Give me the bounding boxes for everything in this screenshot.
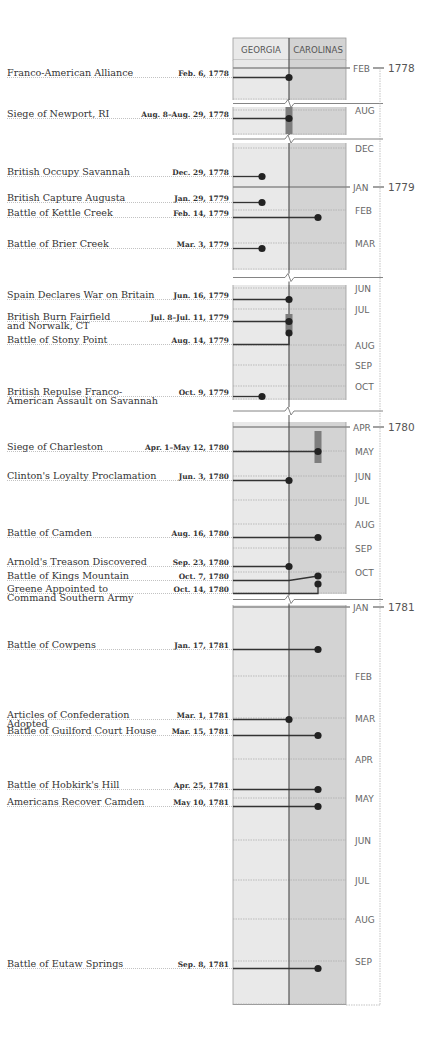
month-label: JUL [354, 496, 369, 506]
column-label-carolinas: CAROLINAS [293, 45, 343, 55]
month-label: APR [355, 755, 373, 765]
event-name: Spain Declares War on Britain [7, 289, 154, 300]
month-label: FEB [353, 64, 370, 74]
event-name: Battle of Kettle Creek [7, 207, 113, 218]
event-dot [285, 296, 292, 303]
year-label: 1781 [388, 601, 415, 613]
event-dot [258, 245, 265, 252]
event-date: Sep. 8, 1781 [178, 960, 229, 969]
panel-georgia [233, 285, 289, 400]
event-date: Mar. 3, 1779 [177, 240, 229, 249]
panel-georgia [233, 422, 289, 594]
event-name: Siege of Newport, RI [7, 108, 110, 119]
panel-georgia [233, 60, 289, 100]
event-date: Mar. 1, 1781 [177, 711, 229, 720]
panel-georgia [233, 605, 289, 1005]
month-label: MAR [355, 239, 375, 249]
event-name: American Assault on Savannah [6, 395, 158, 406]
panel-carolinas [289, 60, 346, 100]
event-range-bar [315, 431, 322, 463]
event-date: Mar. 15, 1781 [172, 727, 229, 736]
event-dot [314, 803, 321, 810]
timeline-chart: GEORGIA CAROLINAS FEB1778AUGDECJAN1779FE… [0, 0, 437, 1044]
event-date: Sep. 23, 1780 [173, 558, 229, 567]
event-dot [314, 965, 321, 972]
panel-georgia [233, 107, 289, 135]
event-date: Jan. 17, 1781 [173, 641, 229, 650]
month-label: AUG [355, 915, 375, 925]
event-dot [314, 572, 321, 579]
event-dot [314, 214, 321, 221]
break-mark [233, 135, 383, 143]
event-name: Franco-American Alliance [7, 67, 134, 78]
month-label: SEP [355, 957, 372, 967]
event-dot [285, 74, 292, 81]
month-label: JAN [352, 183, 368, 193]
event-name: Battle of Camden [7, 527, 92, 538]
event-dot [314, 732, 321, 739]
month-label: DEC [355, 144, 374, 154]
month-label: JUN [354, 284, 371, 294]
event-date: Dec. 29, 1778 [172, 168, 229, 177]
event-date: Oct. 14, 1780 [174, 585, 230, 594]
event-dot [258, 393, 265, 400]
event-name: British Occupy Savannah [7, 166, 130, 177]
break-mark [233, 407, 383, 415]
event-date: Jun. 3, 1780 [178, 472, 229, 481]
month-label: SEP [355, 361, 372, 371]
event-dot [285, 329, 292, 336]
event-date: Jan. 29, 1779 [173, 194, 229, 203]
event: British Occupy SavannahDec. 29, 1778 [7, 166, 266, 181]
event-name: Clinton's Loyalty Proclamation [7, 470, 156, 481]
year-label: 1778 [388, 62, 415, 74]
event-dot [285, 563, 292, 570]
break-mark [233, 274, 383, 282]
event-name: Command Southern Army [7, 592, 134, 603]
month-label: JUL [354, 305, 369, 315]
month-label: FEB [355, 206, 372, 216]
event-name: Battle of Cowpens [7, 639, 96, 650]
panel-carolinas [289, 285, 346, 400]
month-label: AUG [355, 106, 375, 116]
event-name: and Norwalk, CT [7, 320, 90, 331]
panel-carolinas [289, 143, 346, 270]
event-dot [285, 318, 292, 325]
event-name: Battle of Kings Mountain [7, 570, 129, 581]
event-dot [314, 646, 321, 653]
event-dot [258, 199, 265, 206]
event-dot [314, 786, 321, 793]
month-label: AUG [355, 341, 375, 351]
event-dot [285, 115, 292, 122]
month-label: MAY [355, 447, 374, 457]
panel-carolinas [289, 107, 346, 135]
event-date: Feb. 6, 1778 [178, 69, 229, 78]
month-label: APR [353, 423, 371, 433]
month-label: FEB [355, 672, 372, 682]
event-name: Americans Recover Camden [6, 796, 145, 807]
event-name: Arnold's Treason Discovered [6, 556, 147, 567]
event-name: Battle of Guilford Court House [7, 725, 157, 736]
year-label: 1779 [388, 181, 415, 193]
event-dot [285, 716, 292, 723]
event-date: Feb. 14, 1779 [173, 209, 229, 218]
event-name: Battle of Eutaw Springs [7, 958, 123, 969]
event: British Capture AugustaJan. 29, 1779 [7, 192, 266, 207]
event-date: Aug. 14, 1779 [171, 336, 229, 345]
year-label: 1780 [388, 421, 415, 433]
month-label: JAN [352, 603, 368, 613]
month-label: MAY [355, 794, 374, 804]
month-label: AUG [355, 520, 375, 530]
event-dot [314, 580, 321, 587]
month-label: OCT [355, 568, 374, 578]
month-label: OCT [355, 382, 374, 392]
month-label: JUL [354, 876, 369, 886]
event-dot [258, 173, 265, 180]
event-dot [314, 534, 321, 541]
event: British Repulse Franco-American Assault … [6, 386, 266, 407]
event: Battle of Brier CreekMar. 3, 1779 [7, 238, 266, 253]
month-label: MAR [355, 714, 375, 724]
event-dot [285, 477, 292, 484]
month-label: JUN [354, 472, 371, 482]
month-label: SEP [355, 544, 372, 554]
event-date: Oct. 7, 1780 [179, 572, 229, 581]
